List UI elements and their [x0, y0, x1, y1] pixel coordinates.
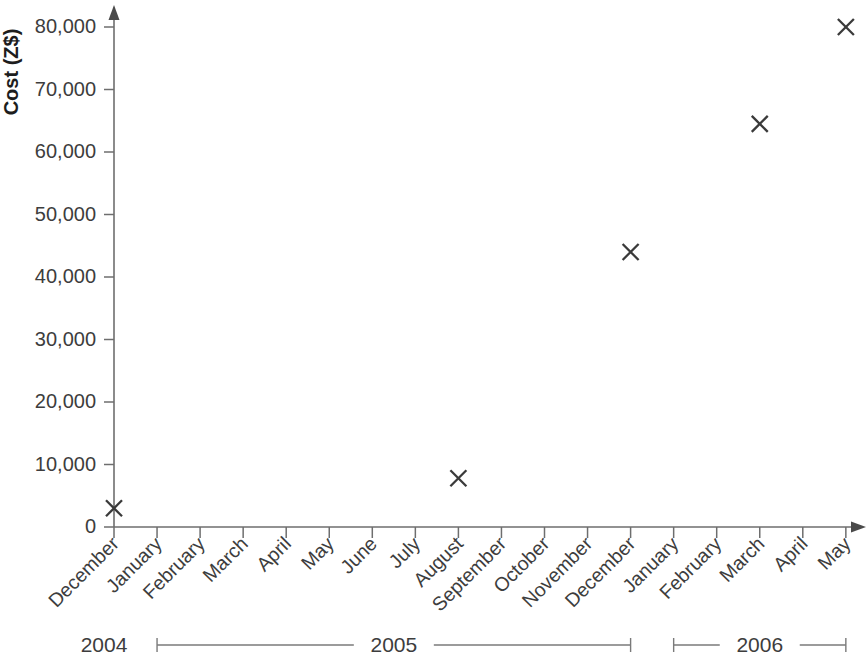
y-tick-label: 80,000 — [35, 15, 96, 37]
data-point — [623, 244, 639, 260]
x-tick-label: June — [336, 532, 381, 577]
y-tick-label: 10,000 — [35, 453, 96, 475]
x-axis-arrow-icon — [851, 522, 866, 533]
year-group: 2006 — [674, 633, 846, 656]
y-tick-label: 60,000 — [35, 140, 96, 162]
y-axis-title: Cost (Z$) — [0, 29, 22, 116]
y-axis-arrow-icon — [109, 5, 120, 20]
y-axis-ticks: 010,00020,00030,00040,00050,00060,00070,… — [35, 15, 114, 537]
y-tick-label: 0 — [85, 515, 96, 537]
data-point — [752, 116, 768, 132]
data-point-markers — [106, 19, 854, 516]
year-group: 2005 — [157, 633, 631, 656]
x-axis-tick-labels: DecemberJanuaryFebruaryMarchAprilMayJune… — [44, 532, 855, 615]
x-tick-label: April — [768, 532, 811, 575]
x-tick-label: March — [715, 532, 769, 586]
data-point — [450, 470, 466, 486]
x-tick-label: March — [198, 532, 252, 586]
y-tick-label: 30,000 — [35, 328, 96, 350]
y-tick-label: 20,000 — [35, 390, 96, 412]
x-tick-label: April — [252, 532, 295, 575]
year-group: 2004 — [81, 633, 128, 656]
data-point — [838, 19, 854, 35]
y-tick-label: 40,000 — [35, 265, 96, 287]
y-tick-label: 50,000 — [35, 203, 96, 225]
x-tick-label: May — [813, 532, 855, 574]
year-group-label: 2006 — [736, 633, 783, 656]
year-group-label: 2004 — [81, 633, 128, 656]
scatter-chart: Cost (Z$) 010,00020,00030,00040,00050,00… — [0, 0, 866, 663]
chart-canvas: Cost (Z$) 010,00020,00030,00040,00050,00… — [0, 0, 866, 663]
year-group-brackets: 200420052006 — [81, 633, 846, 656]
y-tick-label: 70,000 — [35, 78, 96, 100]
x-axis-ticks — [114, 527, 846, 538]
x-tick-label: May — [296, 532, 338, 574]
axes — [109, 5, 866, 533]
year-group-label: 2005 — [370, 633, 417, 656]
